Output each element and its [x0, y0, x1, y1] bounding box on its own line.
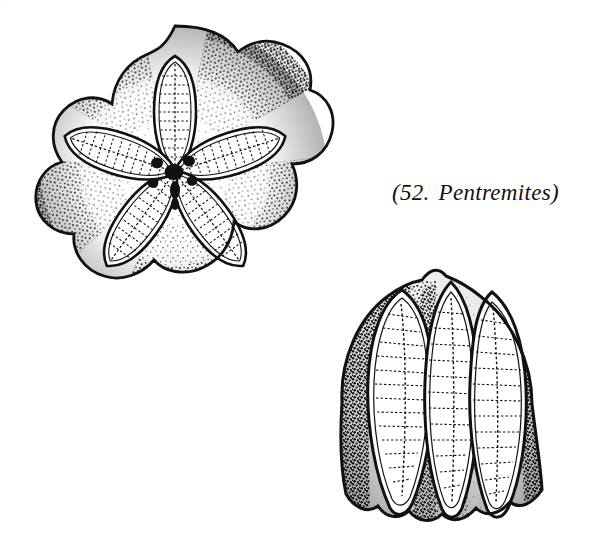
specimen-oral-view: [14, 22, 336, 320]
figure-genus: Pentremites): [439, 180, 559, 205]
specimen-lateral-view: [296, 252, 590, 548]
figure-number: (52.: [392, 180, 430, 205]
figure-page: (51.) Pentremites: [0, 0, 602, 553]
ambulacrum-right: [470, 292, 527, 517]
cropped-text-remnant: (51.) Pentremites: [0, 0, 330, 9]
spiracle: [183, 156, 195, 167]
figure-label: (52.Pentremites): [392, 180, 559, 206]
spiracle: [148, 178, 159, 188]
spiracle: [187, 176, 197, 186]
spiracle: [151, 158, 163, 169]
